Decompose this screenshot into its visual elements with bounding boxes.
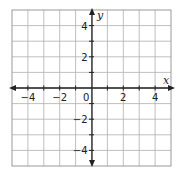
y-tick-label: −2 [73,114,88,125]
axes [9,8,175,167]
y-tick-label: 4 [81,21,87,32]
origin-label: 0 [83,92,89,103]
x-tick-label: −2 [52,92,67,103]
x-tick-label: 4 [152,92,158,103]
x-tick-label: −4 [21,92,36,103]
x-axis-label: x [163,74,170,87]
x-tick-label: 2 [120,92,126,103]
y-axis-arrow-up-icon [89,8,95,15]
y-axis-label: y [96,9,104,22]
coordinate-plane: −4−22442−2−4 x y 0 [0,0,182,173]
y-tick-label: 2 [81,52,87,63]
y-tick-label: −4 [73,145,88,156]
